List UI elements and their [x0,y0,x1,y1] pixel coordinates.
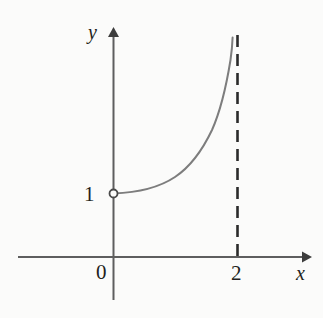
graph-figure: y x 0 1 2 [0,0,323,318]
y-axis [108,27,119,300]
x-axis [18,252,312,263]
x-axis-label: x [296,263,305,283]
x-tick-label-2: 2 [231,263,242,284]
y-axis-arrow-icon [108,27,119,37]
x-axis-arrow-icon [302,252,312,263]
y-tick-label-1: 1 [84,184,95,205]
plot-canvas [0,0,323,318]
function-curve [114,38,233,194]
y-axis-label: y [88,22,97,42]
origin-label: 0 [96,262,107,283]
open-endpoint-circle [110,190,118,198]
